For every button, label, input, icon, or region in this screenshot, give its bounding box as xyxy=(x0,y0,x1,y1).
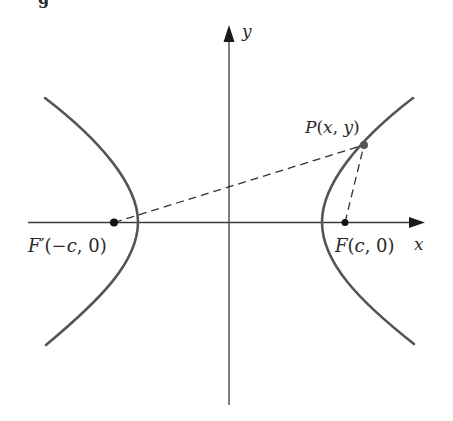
hyperbola-left-branch xyxy=(45,98,138,345)
x-axis-arrow-icon xyxy=(409,217,425,228)
focus-f-dot xyxy=(342,219,349,226)
point-p-dot xyxy=(360,141,368,149)
caption-fragment: g xyxy=(38,0,49,8)
y-axis-arrow-icon xyxy=(224,25,235,42)
x-axis xyxy=(28,217,425,228)
segment-p-to-f xyxy=(345,145,364,223)
segment-p-to-f-prime xyxy=(114,145,364,223)
x-axis-label: x xyxy=(414,234,424,254)
point-p-label: P(x, y) xyxy=(304,117,360,137)
y-axis-label: y xyxy=(241,21,252,41)
hyperbola-diagram: g y x P(x, y) F′(−c, 0) F(c, 0) xyxy=(0,0,453,421)
focus-f-prime-label: F′(−c, 0) xyxy=(27,235,107,256)
y-axis xyxy=(224,25,235,405)
focus-f-prime-dot xyxy=(110,219,118,227)
focus-f-label: F(c, 0) xyxy=(334,235,395,256)
